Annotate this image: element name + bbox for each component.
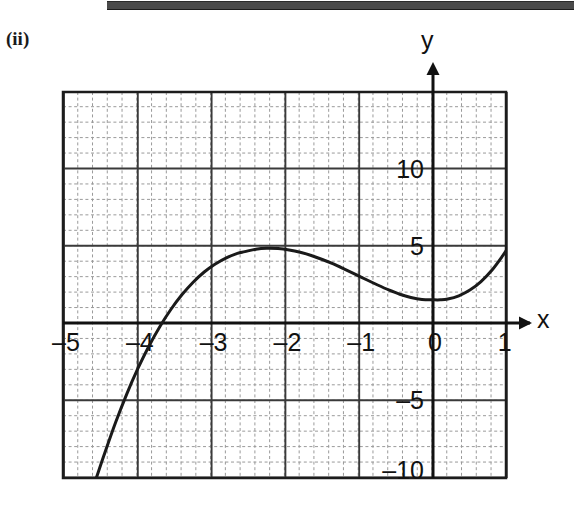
y-tick-label-2: 5 <box>410 232 424 260</box>
x-tick-label-0: –5 <box>52 328 80 356</box>
y-tick-label-0: –10 <box>382 456 424 484</box>
major-gridlines <box>63 92 507 478</box>
x-tick-label-2: –3 <box>200 328 228 356</box>
y-tick-label-3: 10 <box>396 155 424 183</box>
figure-container: (ii) y x –5–4–3–2–101–10–5510 <box>0 0 574 510</box>
x-tick-label-3: –2 <box>273 328 301 356</box>
data-curve <box>96 248 506 477</box>
x-tick-label-6: 1 <box>498 328 512 356</box>
x-tick-label-4: –1 <box>347 328 375 356</box>
tick-labels: –5–4–3–2–101–10–5510 <box>52 155 512 484</box>
graph-plot: –5–4–3–2–101–10–5510 <box>0 0 574 510</box>
x-tick-label-5: 0 <box>428 328 442 356</box>
y-tick-label-1: –5 <box>396 386 424 414</box>
